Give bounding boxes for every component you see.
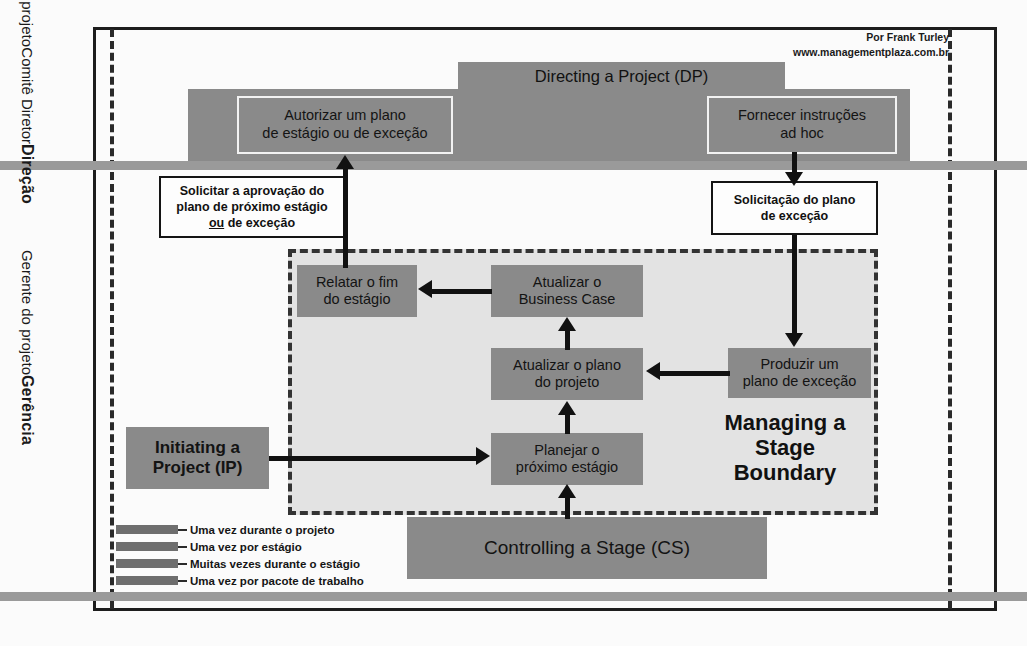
attribution-author: Por Frank Turley bbox=[793, 30, 949, 45]
attribution-site: www.managementplaza.com.br bbox=[793, 45, 949, 60]
lane-label-direcao: Direção Comitê Diretor do projeto bbox=[18, 22, 36, 162]
process-initiating-a-project-line2: Project (IP) bbox=[153, 458, 243, 478]
legend-dash-icon bbox=[178, 546, 187, 548]
legend-item: Muitas vezes durante o estágio bbox=[116, 555, 364, 572]
arrow-solicitacao-to-produzir-head bbox=[785, 333, 803, 347]
arrow-ip-to-planejar-shaft bbox=[269, 456, 477, 461]
diagram-canvas: Direção Comitê Diretor do projeto Gerênc… bbox=[0, 0, 1027, 646]
activity-atualizar-business-case-line1: Atualizar o bbox=[519, 274, 616, 291]
legend-dash-icon bbox=[178, 563, 187, 565]
dashed-guide-left bbox=[110, 29, 114, 609]
activity-atualizar-plano-projeto-line1: Atualizar o plano bbox=[513, 357, 621, 374]
arrow-fornecer-to-solicitacao-head bbox=[785, 172, 803, 186]
activity-planejar-proximo-estagio-line1: Planejar o bbox=[516, 442, 618, 459]
legend-swatch-icon bbox=[116, 559, 178, 568]
activity-planejar-proximo-estagio: Planejar o próximo estágio bbox=[491, 433, 643, 485]
note-approval-request-line3: ou de exceção bbox=[176, 215, 327, 231]
note-exception-plan-request: Solicitação do plano de exceção bbox=[711, 181, 878, 235]
activity-produzir-plano-excecao-line2: plano de exceção bbox=[743, 373, 857, 390]
directing-a-project-tab: Directing a Project (DP) bbox=[458, 62, 785, 90]
activity-autorizar-plano: Autorizar um plano de estágio ou de exce… bbox=[237, 96, 453, 154]
legend-dash-icon bbox=[178, 580, 187, 582]
arrow-cs-to-planejar-shaft bbox=[565, 497, 570, 519]
lane-separator-bottom bbox=[0, 592, 1027, 601]
legend-item: Uma vez durante o projeto bbox=[116, 521, 364, 538]
activity-fornecer-instrucoes: Fornecer instruções ad hoc bbox=[707, 96, 897, 154]
activity-produzir-plano-excecao-line1: Produzir um bbox=[743, 356, 857, 373]
note-approval-request-line2: plano de próximo estágio bbox=[176, 199, 327, 215]
activity-atualizar-business-case: Atualizar o Business Case bbox=[491, 265, 643, 317]
activity-atualizar-plano-projeto-line2: do projeto bbox=[513, 374, 621, 391]
lane-separator-top bbox=[0, 161, 1027, 170]
activity-atualizar-business-case-line2: Business Case bbox=[519, 291, 616, 308]
arrow-produzir-to-atualizar-plano-shaft bbox=[660, 371, 730, 376]
legend-item-label: Muitas vezes durante o estágio bbox=[190, 558, 360, 570]
process-controlling-a-stage: Controlling a Stage (CS) bbox=[407, 517, 767, 579]
note-exception-plan-request-line1: Solicitação do plano bbox=[734, 192, 856, 208]
legend-swatch-icon bbox=[116, 525, 178, 534]
legend-swatch-icon bbox=[116, 576, 178, 585]
directing-a-project-label: Directing a Project (DP) bbox=[458, 62, 785, 90]
arrow-relatar-to-autorizar-head bbox=[336, 155, 354, 169]
activity-planejar-proximo-estagio-line2: próximo estágio bbox=[516, 459, 618, 476]
msb-title-line1: Managing a bbox=[690, 410, 880, 435]
lane-label-direcao-line3: do projeto bbox=[19, 0, 36, 47]
activity-relatar-fim-estagio-line2: do estágio bbox=[316, 291, 398, 308]
legend-item: Uma vez por pacote de trabalho bbox=[116, 572, 364, 589]
legend-item-label: Uma vez por estágio bbox=[190, 541, 302, 553]
arrow-planejar-to-atualizar-plano-shaft bbox=[565, 414, 570, 434]
arrow-solicitacao-to-produzir-shaft bbox=[792, 235, 797, 335]
activity-produzir-plano-excecao: Produzir um plano de exceção bbox=[728, 348, 871, 398]
arrow-atualizar-plano-to-bcase-shaft bbox=[565, 330, 570, 350]
activity-relatar-fim-estagio-line1: Relatar o fim bbox=[316, 274, 398, 291]
activity-fornecer-instrucoes-line1: Fornecer instruções bbox=[738, 107, 866, 125]
attribution: Por Frank Turley www.managementplaza.com… bbox=[793, 30, 949, 60]
note-approval-request-line3-post: de exceção bbox=[224, 216, 295, 230]
note-approval-request-line1: Solicitar a aprovação do bbox=[176, 183, 327, 199]
dashed-guide-right bbox=[948, 29, 952, 609]
legend-swatch-icon bbox=[116, 542, 178, 551]
arrow-bcase-to-relatar-head bbox=[418, 280, 432, 298]
managing-stage-boundary-title: Managing a Stage Boundary bbox=[690, 410, 880, 485]
arrow-ip-to-planejar-head bbox=[476, 447, 490, 465]
lane-label-gerencia: Gerência Gerente do projeto bbox=[18, 255, 36, 440]
legend-item-label: Uma vez por pacote de trabalho bbox=[190, 575, 364, 587]
arrow-relatar-to-autorizar-shaft bbox=[343, 168, 348, 268]
lane-label-gerencia-line2: Gerente do projeto bbox=[19, 250, 36, 375]
legend-item-label: Uma vez durante o projeto bbox=[190, 524, 334, 536]
arrow-bcase-to-relatar-shaft bbox=[432, 289, 492, 294]
lane-label-gerencia-title: Gerência bbox=[18, 375, 36, 445]
process-initiating-a-project-line1: Initiating a bbox=[153, 438, 243, 458]
legend: Uma vez durante o projeto Uma vez por es… bbox=[116, 521, 364, 589]
process-controlling-a-stage-label: Controlling a Stage (CS) bbox=[484, 537, 690, 560]
legend-dash-icon bbox=[178, 529, 187, 531]
msb-title-line2: Stage bbox=[690, 435, 880, 460]
lane-label-direcao-line2: Comitê Diretor bbox=[19, 47, 36, 144]
arrow-produzir-to-atualizar-plano-head bbox=[646, 362, 660, 380]
activity-fornecer-instrucoes-line2: ad hoc bbox=[738, 125, 866, 143]
note-exception-plan-request-line2: de exceção bbox=[734, 208, 856, 224]
note-approval-request: Solicitar a aprovação do plano de próxim… bbox=[159, 176, 345, 238]
legend-item: Uma vez por estágio bbox=[116, 538, 364, 555]
process-initiating-a-project: Initiating a Project (IP) bbox=[126, 427, 269, 489]
msb-title-line3: Boundary bbox=[690, 460, 880, 485]
note-approval-request-emphasis: ou bbox=[209, 216, 224, 230]
activity-autorizar-plano-line1: Autorizar um plano bbox=[262, 107, 427, 125]
activity-relatar-fim-estagio: Relatar o fim do estágio bbox=[297, 265, 417, 317]
activity-atualizar-plano-projeto: Atualizar o plano do projeto bbox=[491, 348, 643, 400]
arrow-atualizar-plano-to-bcase-head bbox=[558, 317, 576, 331]
lane-label-direcao-title: Direção bbox=[18, 144, 36, 204]
arrow-planejar-to-atualizar-plano-head bbox=[558, 401, 576, 415]
activity-autorizar-plano-line2: de estágio ou de exceção bbox=[262, 125, 427, 143]
arrow-cs-to-planejar-head bbox=[558, 484, 576, 498]
